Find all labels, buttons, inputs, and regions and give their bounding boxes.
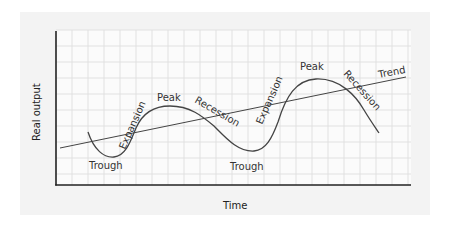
- business-cycle-diagram: Trough Expansion Peak Recession Trough E…: [0, 0, 450, 232]
- y-axis-label: Real output: [31, 83, 42, 141]
- label-peak-2: Peak: [300, 61, 324, 72]
- label-peak-1: Peak: [157, 92, 181, 103]
- label-trough-2: Trough: [229, 161, 264, 172]
- label-trough-1: Trough: [88, 160, 123, 171]
- x-axis-label: Time: [222, 200, 247, 211]
